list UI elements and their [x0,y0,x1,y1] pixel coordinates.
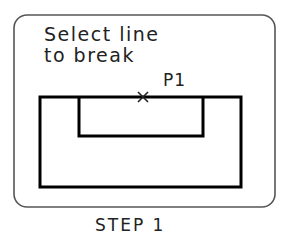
inner-notch [79,97,203,136]
prompt-line-1: Select line [44,23,159,45]
prompt-line-2: to break [44,44,135,66]
break-step-diagram: Select line to break P1 STEP 1 [0,0,290,233]
outer-rectangle [40,97,241,187]
step-caption: STEP 1 [95,215,165,233]
point-label-p1: P1 [163,70,186,90]
